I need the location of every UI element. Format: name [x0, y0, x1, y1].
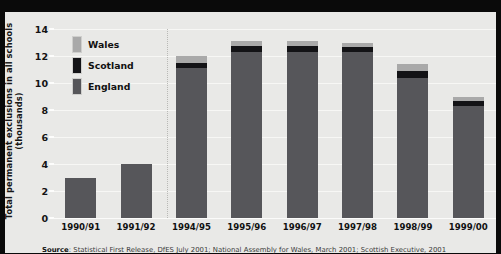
gridline [53, 164, 496, 165]
legend-item-scotland: Scotland [72, 57, 152, 74]
bar-segment-england [342, 52, 373, 218]
bar-segment-wales [176, 56, 207, 63]
x-tick-label: 1991/92 [117, 222, 156, 232]
x-tick-label: 1994/95 [172, 222, 211, 232]
bar-1995-96 [231, 41, 262, 218]
y-tick-label: 0 [41, 213, 48, 224]
bar-1991-92 [121, 164, 152, 218]
gridline [53, 137, 496, 138]
source-text: Statistical First Release, DfES July 200… [73, 246, 446, 254]
bar-1996-97 [287, 41, 318, 218]
x-tick-label: 1997/98 [338, 222, 377, 232]
bar-segment-england [287, 52, 318, 218]
bar-1997-98 [342, 43, 373, 219]
y-tick-label: 10 [35, 78, 48, 89]
y-axis-title: Total permanent exclusions in all school… [4, 21, 22, 221]
legend-swatch-scotland [72, 57, 82, 74]
bar-segment-england [65, 178, 96, 219]
y-tick-label: 8 [41, 105, 48, 116]
bar-segment-england [231, 52, 262, 218]
y-tick-mark [49, 163, 54, 165]
bar-segment-england [453, 106, 484, 218]
period-divider [167, 29, 168, 218]
legend-item-wales: Wales [72, 36, 152, 53]
bar-segment-england [176, 68, 207, 218]
axis-baseline [53, 218, 496, 220]
y-tick-mark [49, 28, 54, 30]
bar-1994-95 [176, 56, 207, 218]
y-tick-mark [49, 82, 54, 84]
x-tick-label: 1998/99 [393, 222, 432, 232]
bar-segment-wales [397, 64, 428, 71]
x-tick-label: 1996/97 [283, 222, 322, 232]
y-tick-label: 4 [41, 159, 48, 170]
source-note: Source: Statistical First Release, DfES … [42, 246, 501, 254]
y-tick-mark [49, 190, 54, 192]
x-tick-label: 1995/96 [227, 222, 266, 232]
legend-label: Wales [88, 39, 119, 50]
y-tick-label: 14 [35, 24, 48, 35]
legend-swatch-wales [72, 36, 82, 53]
y-tick-label: 2 [41, 186, 48, 197]
x-tick-label: 1990/91 [61, 222, 100, 232]
gridline [53, 191, 496, 192]
bar-segment-england [397, 78, 428, 218]
gridline [53, 110, 496, 111]
y-tick-mark [49, 109, 54, 111]
legend-swatch-england [72, 78, 82, 95]
legend-label: England [88, 81, 130, 92]
chart-legend: WalesScotlandEngland [72, 36, 152, 99]
legend-item-england: England [72, 78, 152, 95]
bar-segment-scotland [397, 71, 428, 78]
legend-label: Scotland [88, 60, 134, 71]
gridline [53, 29, 496, 30]
y-tick-label: 12 [35, 51, 48, 62]
bar-1998-99 [397, 64, 428, 218]
y-tick-mark [49, 55, 54, 57]
y-tick-label: 6 [41, 132, 48, 143]
source-label: Source [42, 246, 69, 254]
chart-panel: Total permanent exclusions in all school… [5, 12, 496, 253]
x-tick-label: 1999/00 [449, 222, 488, 232]
bar-1990-91 [65, 178, 96, 219]
bar-1999-00 [453, 97, 484, 219]
bar-segment-england [121, 164, 152, 218]
y-tick-mark [49, 136, 54, 138]
